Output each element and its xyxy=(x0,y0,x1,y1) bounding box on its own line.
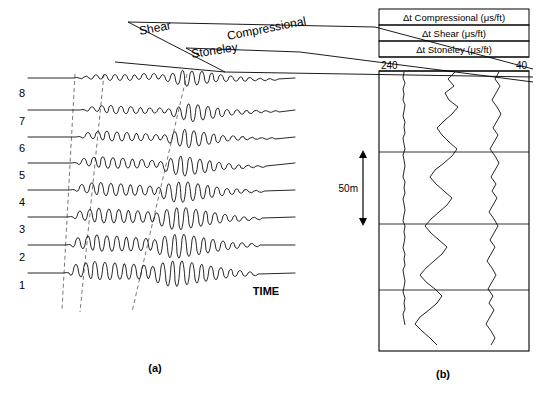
trace-label-6: 6 xyxy=(19,142,25,154)
compressional-label: Compressional xyxy=(226,14,307,43)
trace-label-1: 1 xyxy=(19,279,25,291)
trace-label-2: 2 xyxy=(19,251,25,263)
trace-label-7: 7 xyxy=(19,115,25,127)
shear-log-curve xyxy=(415,72,458,345)
scale-row: 240 40 xyxy=(379,57,529,71)
depth-scale-bar xyxy=(359,150,367,226)
panel-b-caption: (b) xyxy=(436,368,450,380)
header-track-shear: Δt Shear (μs/ft) xyxy=(422,28,486,39)
waveform-trace-2 xyxy=(28,234,295,258)
scale-right-value: 40 xyxy=(516,60,528,71)
trace-label-4: 4 xyxy=(19,196,25,208)
log-track-frame xyxy=(379,71,529,351)
trace-label-5: 5 xyxy=(19,169,25,181)
waveform-trace-1 xyxy=(28,261,295,287)
log-curves xyxy=(403,72,501,345)
panel-a-caption: (a) xyxy=(148,362,162,374)
waveform-trace-7 xyxy=(28,104,295,122)
depth-scale-label: 50m xyxy=(339,183,358,194)
waveform-trace-3 xyxy=(28,208,295,230)
scale-left-value: 240 xyxy=(381,60,398,71)
panel-b: Δt Compressional (μs/ft) Δt Shear (μs/ft… xyxy=(339,9,529,380)
trace-label-3: 3 xyxy=(19,223,25,235)
panel-a: 8 7 6 5 4 3 2 1 Compressional Shear Ston… xyxy=(19,14,533,374)
waveform-traces xyxy=(28,70,295,286)
compressional-log-curve xyxy=(486,72,501,345)
depth-grid-lines xyxy=(379,152,529,290)
header-track-compressional: Δt Compressional (μs/ft) xyxy=(403,12,505,23)
stoneley-label: Stoneley xyxy=(190,40,238,61)
waveform-trace-6 xyxy=(28,129,295,147)
sonic-log-figure: 8 7 6 5 4 3 2 1 Compressional Shear Ston… xyxy=(0,0,538,404)
stoneley-log-curve xyxy=(403,72,405,325)
trace-number-labels: 8 7 6 5 4 3 2 1 xyxy=(19,87,25,291)
shear-label: Shear xyxy=(138,18,172,38)
trace-label-8: 8 xyxy=(19,87,25,99)
header-track-stoneley: Δt Stoneley (μs/ft) xyxy=(416,44,492,55)
waveform-trace-5 xyxy=(28,156,295,176)
time-axis-label: TIME xyxy=(253,285,279,297)
compressional-moveout xyxy=(62,74,75,310)
